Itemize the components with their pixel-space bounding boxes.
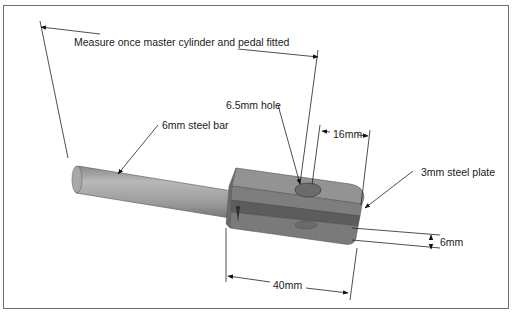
gap-dimension bbox=[352, 228, 440, 249]
steel-bar bbox=[72, 166, 232, 218]
bar-leader bbox=[118, 125, 158, 174]
hole-label: 6.5mm hole bbox=[226, 99, 281, 111]
offset-label: 16mm bbox=[333, 128, 362, 140]
measure-note-label: Measure once master cylinder and pedal f… bbox=[74, 36, 289, 48]
diagram-canvas: Measure once master cylinder and pedal f… bbox=[0, 0, 517, 316]
hole bbox=[295, 183, 321, 197]
plate-label: 3mm steel plate bbox=[421, 166, 495, 178]
hole-leader bbox=[278, 105, 300, 184]
plate-leader bbox=[365, 171, 413, 208]
gap-label: 6mm bbox=[440, 236, 463, 248]
bar-label: 6mm steel bar bbox=[162, 119, 229, 131]
clevis-body bbox=[226, 168, 364, 244]
length-label: 40mm bbox=[273, 279, 302, 291]
